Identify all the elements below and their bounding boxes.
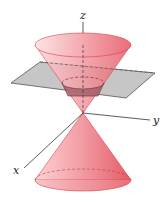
diagram-canvas: z y x [0,0,165,203]
y-axis-label: y [152,114,160,127]
z-axis-label: z [79,9,86,22]
lower-cone [35,113,131,180]
double-cone-diagram: z y x [0,0,165,203]
x-axis-label: x [13,164,20,177]
lower-cone-base [35,180,131,191]
y-axis [83,113,150,120]
